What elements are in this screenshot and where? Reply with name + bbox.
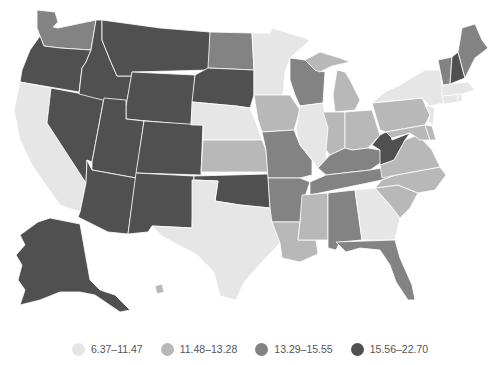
state-me xyxy=(458,24,488,78)
legend-item-class-1: 6.37–11.47 xyxy=(72,343,143,356)
state-mi xyxy=(333,70,360,112)
state-ia xyxy=(254,95,300,132)
state-nm xyxy=(128,173,194,234)
legend-swatch-class-2 xyxy=(161,343,174,356)
legend-label-class-4: 15.56–22.70 xyxy=(370,343,428,355)
legend-label-class-2: 11.48–13.28 xyxy=(180,343,238,355)
state-ks xyxy=(201,140,268,172)
state-fl xyxy=(336,240,415,300)
us-choropleth-map xyxy=(0,0,500,330)
legend-swatch-class-3 xyxy=(255,343,268,356)
state-ri xyxy=(458,94,462,102)
legend-label-class-3: 13.29–15.55 xyxy=(274,343,332,355)
legend: 6.37–11.47 11.48–13.28 13.29–15.55 15.56… xyxy=(0,337,500,361)
state-wy xyxy=(126,72,195,125)
legend-swatch-class-4 xyxy=(351,343,364,356)
legend-swatch-class-1 xyxy=(72,343,85,356)
state-ms xyxy=(298,193,328,240)
state-nd xyxy=(208,32,254,70)
state-hi xyxy=(155,284,164,294)
legend-item-class-2: 11.48–13.28 xyxy=(161,343,238,356)
legend-label-class-1: 6.37–11.47 xyxy=(91,343,143,355)
state-sd xyxy=(192,68,254,108)
state-co xyxy=(136,121,203,175)
legend-item-class-3: 13.29–15.55 xyxy=(255,343,332,356)
state-wa xyxy=(37,10,96,50)
state-mt xyxy=(102,20,210,76)
legend-item-class-4: 15.56–22.70 xyxy=(351,343,428,356)
